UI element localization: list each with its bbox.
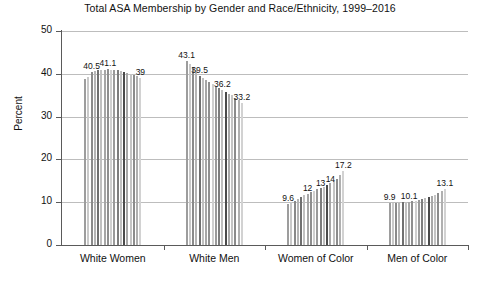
bar	[405, 202, 407, 245]
data-label: 13.1	[437, 178, 454, 188]
chart-container: Total ASA Membership by Gender and Race/…	[0, 0, 480, 288]
bar	[104, 70, 106, 245]
bar	[441, 191, 443, 245]
bar	[238, 100, 240, 245]
bar	[329, 183, 331, 245]
bar	[415, 201, 417, 245]
bar	[189, 64, 191, 245]
data-label: 13	[316, 178, 325, 188]
bar	[110, 70, 112, 245]
bar	[437, 193, 439, 245]
data-label: 39.5	[191, 65, 208, 75]
bar	[389, 203, 391, 245]
data-label: 39	[136, 67, 145, 77]
bar	[120, 71, 122, 245]
x-axis-category-label: Men of Color	[387, 252, 447, 264]
bar	[408, 202, 410, 245]
y-tick-label: 50	[18, 24, 52, 35]
bar	[333, 181, 335, 245]
data-label: 12	[303, 183, 312, 193]
chart-title: Total ASA Membership by Gender and Race/…	[0, 2, 480, 14]
bar	[212, 84, 214, 245]
data-label: 41.1	[100, 58, 117, 68]
bar	[113, 70, 115, 245]
bar	[130, 74, 132, 245]
bar	[107, 69, 109, 245]
bar	[139, 78, 141, 245]
bar	[192, 67, 194, 245]
bar	[84, 79, 86, 245]
bar	[126, 73, 128, 245]
bar	[91, 72, 93, 245]
bar	[398, 203, 400, 245]
bar	[418, 200, 420, 245]
bar	[392, 203, 394, 245]
data-label: 10.1	[401, 191, 418, 201]
data-label: 9.6	[282, 193, 294, 203]
bar	[300, 197, 302, 245]
bar	[434, 195, 436, 246]
bar	[313, 191, 315, 245]
x-axis-category-label: White Men	[189, 252, 239, 264]
y-tick-label: 30	[18, 110, 52, 121]
bar	[339, 175, 341, 245]
bar	[310, 192, 312, 245]
y-tick-label: 20	[18, 152, 52, 163]
bar	[94, 71, 96, 245]
x-axis-category-label: White Women	[80, 252, 146, 264]
bar	[326, 185, 328, 245]
data-label: 9.9	[384, 192, 396, 202]
bar	[225, 92, 227, 245]
y-tick-label: 0	[18, 238, 52, 249]
bar	[297, 199, 299, 245]
bar	[97, 70, 99, 245]
bar	[241, 103, 243, 245]
bar	[303, 195, 305, 245]
y-tick-label: 40	[18, 67, 52, 78]
bar	[123, 72, 125, 245]
bar	[421, 199, 423, 245]
bar	[444, 189, 446, 245]
bar	[215, 86, 217, 245]
bar	[202, 78, 204, 245]
data-label: 14	[326, 174, 335, 184]
data-label: 43.1	[178, 50, 195, 60]
bar	[100, 70, 102, 245]
bar	[320, 188, 322, 245]
bar	[208, 82, 210, 245]
bar	[195, 70, 197, 245]
bar-group	[287, 31, 344, 245]
bar	[290, 202, 292, 245]
bar	[87, 77, 89, 245]
data-label: 36.2	[214, 79, 231, 89]
bar	[117, 70, 119, 245]
bar	[307, 194, 309, 245]
bar-group	[389, 31, 446, 245]
bar	[395, 203, 397, 245]
bar	[342, 171, 344, 245]
data-label: 33.2	[234, 92, 251, 102]
bar	[133, 75, 135, 245]
bar	[402, 202, 404, 245]
bar	[431, 196, 433, 245]
data-label: 40.5	[83, 61, 100, 71]
bar	[411, 201, 413, 245]
bar	[234, 98, 236, 245]
y-tick-label: 10	[18, 195, 52, 206]
bar	[199, 76, 201, 245]
bar	[205, 80, 207, 245]
bar	[231, 95, 233, 245]
bar	[428, 197, 430, 245]
bar	[228, 94, 230, 246]
data-label: 17.2	[335, 160, 352, 170]
bar	[221, 90, 223, 245]
bars-layer	[62, 31, 468, 245]
bar	[316, 189, 318, 245]
x-axis-category-label: Women of Color	[278, 252, 354, 264]
x-axis-separator	[164, 245, 165, 250]
y-tick-mark	[56, 245, 62, 246]
bar	[294, 201, 296, 246]
bar-group	[186, 31, 243, 245]
bar	[287, 204, 289, 245]
bar	[186, 61, 188, 245]
